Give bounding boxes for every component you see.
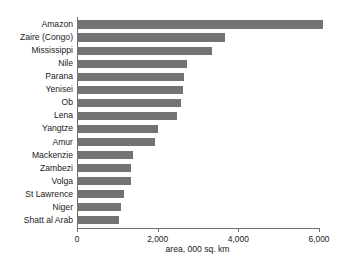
x-axis-line [77,228,320,229]
x-axis-tick-label: 2,000 [147,234,168,244]
bar-row [77,109,319,122]
bar-row [77,175,319,188]
x-axis-tick-mark [158,228,159,232]
bar-row [77,44,319,57]
bar [77,164,131,172]
bar [77,99,181,107]
bar [77,203,121,211]
bar [77,216,119,224]
bar-row [77,201,319,214]
bar-row [77,18,319,31]
plot-area [77,18,319,227]
bar [77,177,131,185]
x-axis-tick-label: 6,000 [309,234,330,244]
bar-chart-figure: 02,0004,0006,000 AmazonZaire (Congo)Miss… [0,0,351,263]
bar-row [77,31,319,44]
y-axis-tick-label: Yangtze [0,122,73,135]
bar-row [77,57,319,70]
y-axis-tick-label: Yenisei [0,83,73,96]
y-axis-tick-label: Ob [0,96,73,109]
x-axis-tick-mark [77,228,78,232]
y-axis-tick-label: Nile [0,57,73,70]
bar-row [77,214,319,227]
bar-row [77,136,319,149]
y-axis-tick-label: Niger [0,201,73,214]
y-axis-tick-label: Amazon [0,18,73,31]
x-axis-tick-mark [319,228,320,232]
bar-row [77,70,319,83]
bar [77,112,177,120]
bar-row [77,149,319,162]
bar [77,33,225,41]
bar [77,151,133,159]
y-axis-tick-label: Mississippi [0,44,73,57]
bar [77,138,155,146]
y-axis-tick-label: Mackenzie [0,149,73,162]
y-axis-tick-label: Lena [0,109,73,122]
y-axis-tick-label: Parana [0,70,73,83]
bar [77,190,124,198]
bar-row [77,96,319,109]
y-axis-tick-label: St Lawrence [0,188,73,201]
bar [77,86,183,94]
x-axis-tick-mark [238,228,239,232]
bar [77,47,212,55]
y-axis-tick-label: Amur [0,136,73,149]
bar [77,60,187,68]
bar [77,73,184,81]
bar [77,20,323,28]
bar-row [77,188,319,201]
y-axis-tick-label: Shatt al Arab [0,214,73,227]
x-axis-title: area, 000 sq. km [0,244,351,254]
y-axis-tick-label: Volga [0,175,73,188]
bar-row [77,122,319,135]
y-axis-tick-label: Zaire (Congo) [0,31,73,44]
bar-row [77,83,319,96]
bar-row [77,162,319,175]
bar [77,125,158,133]
y-axis-tick-label: Zambezi [0,162,73,175]
x-axis-tick-label: 0 [75,234,80,244]
x-axis-title-text: area, 000 sq. km [165,244,229,254]
x-axis-tick-label: 4,000 [228,234,249,244]
